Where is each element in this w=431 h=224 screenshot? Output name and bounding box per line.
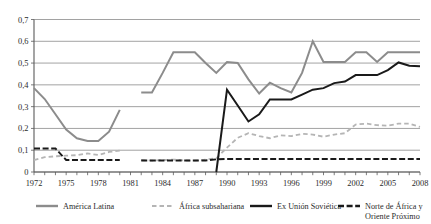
x-tick-label: 1996: [283, 179, 300, 188]
x-tick-label: 2002: [347, 179, 364, 188]
y-tick-label: 0,2: [18, 124, 28, 133]
y-tick-label: 0: [24, 168, 28, 177]
chart-container: 00,10,20,30,40,50,60,7 19721975197819811…: [0, 0, 431, 224]
x-tick-label: 1987: [186, 179, 203, 188]
series-line-2: [216, 62, 420, 172]
series-line-0: [34, 88, 120, 141]
y-tick-label: 0,3: [18, 103, 28, 112]
y-tick-label: 0,5: [18, 59, 28, 68]
x-tick-label: 1999: [315, 179, 332, 188]
y-axis-tick-labels: 00,10,20,30,40,50,60,7: [18, 16, 29, 178]
y-tick-label: 0,4: [18, 81, 29, 90]
x-tick-label: 2008: [412, 179, 429, 188]
y-tick-label: 0,1: [18, 146, 28, 155]
legend-label-0: América Latina: [63, 202, 115, 211]
legend-label-2: Ex Unión Soviética: [277, 202, 341, 211]
y-tick-label: 0,6: [18, 37, 28, 46]
y-tick-label: 0,7: [18, 16, 28, 25]
x-tick-label: 1978: [90, 179, 107, 188]
line-chart: 00,10,20,30,40,50,60,7 19721975197819811…: [0, 0, 431, 224]
x-tick-label: 1984: [154, 179, 172, 188]
x-tick-label: 2005: [379, 179, 396, 188]
legend-label-1: África subsahariana: [179, 201, 245, 211]
x-tick-label: 1975: [58, 179, 75, 188]
legend-label-3-line2: Oriente Próximo: [365, 212, 420, 221]
chart-legend: América LatinaÁfrica subsaharianaEx Unió…: [36, 201, 423, 221]
x-tick-label: 1981: [122, 179, 139, 188]
series-line-1: [141, 124, 420, 161]
x-axis-tick-labels: 1972197519781981198419871990199319961999…: [26, 179, 429, 188]
x-tick-label: 1972: [26, 179, 43, 188]
x-tick-label: 1993: [251, 179, 268, 188]
series-line-0: [141, 41, 420, 93]
series-line-1: [34, 151, 120, 160]
x-tick-label: 1990: [219, 179, 236, 188]
legend-label-3: Norte de África y: [365, 201, 423, 211]
